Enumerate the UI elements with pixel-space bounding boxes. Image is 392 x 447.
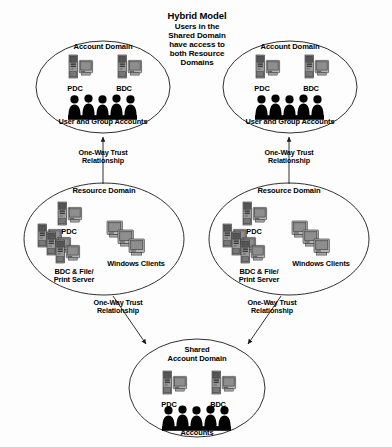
- diagram-title: Hybrid Model: [152, 11, 242, 22]
- trust-label-res-left-to-shared: One-Way Trust Relationship: [78, 299, 158, 315]
- resource-domain-right-client-stack-icon: [292, 221, 329, 255]
- shared-account-domain-pdc-icon: [163, 371, 187, 394]
- account-domain-left-people-icon: [68, 95, 137, 120]
- account-domain-left-pdc-label: PDC: [58, 85, 92, 93]
- account-domain-left-base-label: User and Group Accounts: [48, 118, 158, 126]
- resource-domain-right-server-label: BDC & File/ Print Server: [221, 268, 297, 285]
- resource-domain-right-title: Resource Domain: [244, 187, 334, 196]
- shared-account-domain-people-icon: [162, 406, 231, 431]
- trust-label-res-left-to-acct-left: One-Way Trust Relationship: [63, 149, 143, 165]
- account-domain-right-pdc-icon: [256, 55, 280, 78]
- diagram-canvas: Hybrid Model Users in the Shared Domain …: [0, 0, 392, 447]
- resource-domain-right-pdc-icon: [243, 202, 267, 225]
- trust-label-res-right-to-shared: One-Way Trust Relationship: [232, 299, 312, 315]
- account-domain-right-pdc-label: PDC: [245, 85, 279, 93]
- account-domain-left-bdc-label: BDC: [107, 85, 141, 93]
- resource-domain-right-clients-label: Windows Clients: [283, 260, 359, 268]
- shared-account-domain-title: Shared Account Domain: [152, 346, 242, 363]
- shared-account-domain-bdc-icon: [212, 371, 236, 394]
- resource-domain-left-server-label: BDC & File/ Print Server: [36, 268, 112, 285]
- resource-domain-left-client-stack-icon: [107, 221, 144, 255]
- account-domain-left-title: Account Domain: [58, 43, 148, 52]
- account-domain-right-title: Account Domain: [245, 43, 335, 52]
- diagram-subtitle: Users in the Shared Domain have access t…: [152, 23, 242, 68]
- shared-account-domain-base-label: Accounts: [152, 429, 242, 437]
- account-domain-left-pdc-icon: [69, 55, 93, 78]
- resource-domain-right-pdc-label: PDC: [237, 228, 271, 236]
- shared-account-domain-bdc-label: BDC: [201, 401, 235, 409]
- resource-domain-left-title: Resource Domain: [59, 187, 149, 196]
- resource-domain-left-clients-label: Windows Clients: [98, 260, 174, 268]
- account-domain-right-base-label: User and Group Accounts: [235, 118, 345, 126]
- shared-account-domain-pdc-label: PDC: [152, 401, 186, 409]
- account-domain-right-bdc-icon: [305, 55, 329, 78]
- account-domain-right-bdc-label: BDC: [294, 85, 328, 93]
- resource-domain-left-pdc-label: PDC: [52, 228, 86, 236]
- account-domain-left-bdc-icon: [118, 55, 142, 78]
- trust-label-res-right-to-acct-right: One-Way Trust Relationship: [249, 149, 329, 165]
- account-domain-right-people-icon: [255, 95, 324, 120]
- resource-domain-left-pdc-icon: [58, 202, 82, 225]
